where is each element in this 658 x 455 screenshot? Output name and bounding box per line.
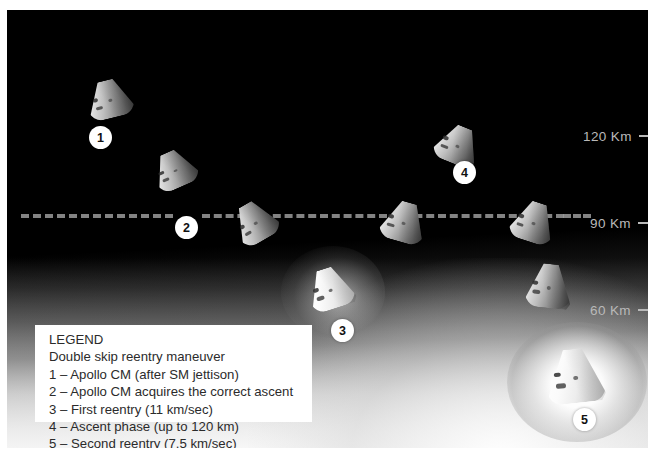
capsule-3 [302,262,358,315]
capsule-1 [82,75,137,123]
legend-item-3: 3 – First reentry (11 km/sec) [49,401,312,418]
capsule-2 [226,194,284,251]
legend-item-5: 5 – Second reentry (7.5 km/sec) [49,435,312,448]
trajectory-dashed-line-right [563,214,591,218]
legend-item-2: 2 – Apollo CM acquires the correct ascen… [49,383,312,400]
altitude-label-90-text: 90 Km [590,216,631,231]
capsule-hatch-icon [533,280,539,285]
trajectory-dashed-line-left [21,214,173,218]
capsule-5 [543,346,606,406]
badge-2: 2 [175,216,198,239]
altitude-label-120-text: 120 Km [583,129,632,144]
badge-4: 4 [453,161,476,184]
space-scene-panel: 1 2 3 [7,10,648,448]
badge-3: 3 [331,319,354,342]
capsule-skip-out [376,196,431,247]
altitude-label-60-text: 60 Km [590,303,631,318]
altitude-tick-icon [639,135,648,137]
legend-box: LEGEND Double skip reentry maneuver 1 – … [35,325,312,422]
altitude-label-90: 90 Km [590,216,648,231]
capsule-descending-a [146,143,202,195]
legend-title: LEGEND [49,331,312,348]
illustration-stage: 1 2 3 [0,0,658,455]
altitude-label-60: 60 Km [590,303,648,318]
altitude-tick-icon [638,309,648,311]
capsule-descending-c [524,262,574,311]
badge-5: 5 [573,408,596,431]
capsule-descending-b [506,196,561,248]
legend-item-1: 1 – Apollo CM (after SM jettison) [49,366,312,383]
altitude-label-120: 120 Km [583,129,648,144]
legend-item-4: 4 – Ascent phase (up to 120 km) [49,418,312,435]
capsule-panel-icon [533,290,541,294]
altitude-tick-icon [638,222,648,224]
badge-1: 1 [89,126,112,149]
legend-subtitle: Double skip reentry maneuver [49,348,312,365]
